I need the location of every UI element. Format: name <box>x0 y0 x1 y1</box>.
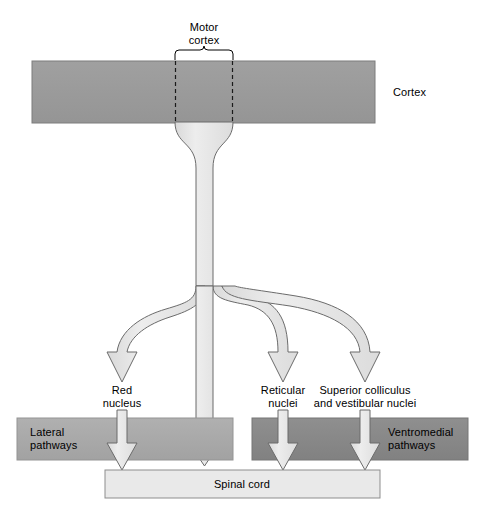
ventromedial-pathways-label-line2: pathways <box>388 439 453 452</box>
motor-cortex-label: Motor cortex <box>189 21 220 46</box>
lateral-pathways-label-line1: Lateral <box>30 426 77 439</box>
motor-cortex-label-line1: Motor <box>189 21 220 34</box>
spinal-cord-label: Spinal cord <box>214 478 270 491</box>
motor-cortex-bracket <box>175 46 233 60</box>
ventromedial-pathways-label-line1: Ventromedial <box>388 426 453 439</box>
superior-colliculus-label-line2: and vestibular nuclei <box>314 397 416 410</box>
lateral-pathways-label-line2: pathways <box>30 439 77 452</box>
red-nucleus-label-line2: nucleus <box>103 397 142 410</box>
superior-colliculus-label: Superior colliculus and vestibular nucle… <box>314 384 416 409</box>
superior-colliculus-label-line1: Superior colliculus <box>314 384 416 397</box>
branch-to-red-nucleus <box>107 286 205 382</box>
ventromedial-pathways-label: Ventromedial pathways <box>388 426 453 451</box>
motor-pathways-diagram: Motor cortex Cortex Red nucleus Reticula… <box>0 0 489 523</box>
cortex-label: Cortex <box>393 86 426 99</box>
reticular-nuclei-label: Reticular nuclei <box>261 384 305 409</box>
red-nucleus-label-line1: Red <box>103 384 142 397</box>
motor-cortex-label-line2: cortex <box>189 34 220 47</box>
cortex-band <box>32 61 375 123</box>
lateral-pathways-label: Lateral pathways <box>30 426 77 451</box>
corticospinal-trunk <box>175 122 233 286</box>
reticular-nuclei-label-line2: nuclei <box>261 397 305 410</box>
red-nucleus-label: Red nucleus <box>103 384 142 409</box>
reticular-nuclei-label-line1: Reticular <box>261 384 305 397</box>
